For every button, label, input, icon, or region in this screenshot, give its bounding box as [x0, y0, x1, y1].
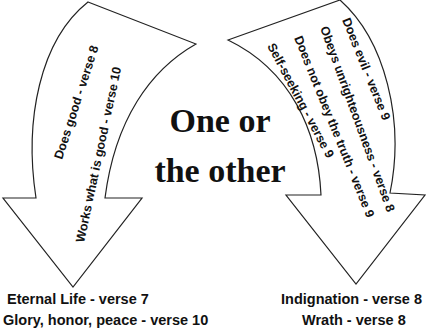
right-outcome-2: Wrath - verse 8 — [302, 312, 406, 328]
center-title: One or the other — [150, 96, 290, 196]
left-outcome-1: Eternal Life - verse 7 — [7, 291, 149, 307]
right-outcome-1: Indignation - verse 8 — [281, 291, 422, 307]
center-title-line-2: the other — [150, 146, 290, 196]
center-title-line-1: One or — [150, 96, 290, 146]
left-outcome-2: Glory, honor, peace - verse 10 — [3, 312, 208, 328]
